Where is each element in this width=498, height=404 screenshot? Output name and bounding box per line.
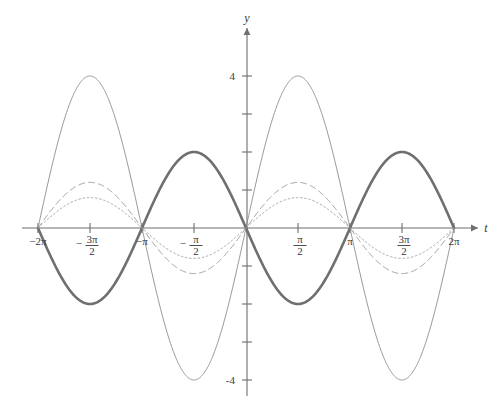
x-tick-label-2: −π	[136, 235, 148, 247]
x-tick-label-6-denominator: 2	[401, 245, 407, 257]
x-tick-label-4-denominator: 2	[297, 245, 303, 257]
x-tick-label-4-numerator: π	[297, 233, 303, 245]
y-tick-label-0: 4	[230, 70, 236, 82]
axes	[22, 28, 478, 396]
x-tick-label-1-denominator: 2	[89, 245, 95, 257]
x-tick-label-5: π	[347, 235, 353, 247]
x-tick-label-0: −2π	[29, 235, 47, 247]
x-tick-label-3-denominator: 2	[193, 245, 199, 257]
x-tick-label-6: 3π2	[398, 233, 411, 257]
x-tick-label-1-numerator: 3π	[86, 233, 98, 245]
x-tick-label-1-sign: −	[76, 237, 82, 249]
x-tick-label-3-sign: −	[180, 237, 186, 249]
x-tick-label-6-numerator: 3π	[398, 233, 410, 245]
sine-family-plot: −2π3π2−−ππ2−π2π3π22π4-4 y t	[0, 0, 498, 404]
x-axis-label: t	[484, 221, 488, 235]
y-axis-arrowhead	[244, 28, 251, 35]
x-axis-arrowhead	[471, 225, 478, 232]
x-tick-label-7: 2π	[448, 235, 460, 247]
x-tick-label-3-numerator: π	[193, 233, 199, 245]
x-tick-label-1: 3π2−	[76, 233, 99, 257]
x-tick-label-3: π2−	[180, 233, 203, 257]
x-tick-label-4: π2	[294, 233, 307, 257]
graph-canvas: −2π3π2−−ππ2−π2π3π22π4-4 y t	[0, 0, 498, 404]
y-axis-label: y	[243, 11, 250, 25]
y-tick-label-1: -4	[226, 374, 236, 386]
